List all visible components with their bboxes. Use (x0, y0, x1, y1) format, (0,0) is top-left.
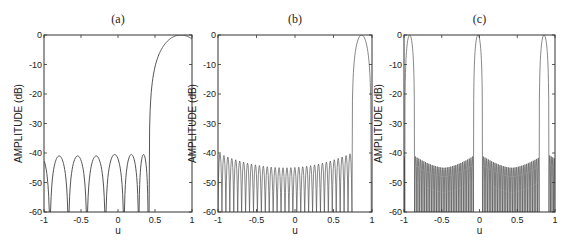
y-tick-label: 0 (211, 30, 216, 40)
x-tick-label: -0.5 (249, 215, 265, 225)
y-tick-label: -50 (389, 178, 402, 188)
y-tick-label: -60 (389, 207, 402, 217)
x-tick-label: 0 (115, 215, 120, 225)
y-tick-label: -30 (29, 119, 42, 129)
subplot-b: (b)-1-0.500.510-10-20-30-40-50-60uAMPLIT… (187, 12, 375, 236)
x-axis-label: u (292, 225, 298, 236)
y-tick-label: 0 (37, 30, 42, 40)
subplot-title: (a) (111, 12, 124, 26)
y-tick-label: -10 (203, 60, 216, 70)
y-tick-label: 0 (397, 30, 402, 40)
subplot-a: (a)-1-0.500.510-10-20-30-40-50-60uAMPLIT… (13, 12, 195, 236)
subplot-title: (b) (288, 12, 302, 26)
x-tick-label: -0.5 (434, 215, 450, 225)
x-tick-label: 0.5 (327, 215, 340, 225)
x-tick-label: -0.5 (73, 215, 89, 225)
y-tick-label: -30 (203, 119, 216, 129)
y-axis-label: AMPLITUDE (dB) (187, 84, 198, 163)
figure: (a)-1-0.500.510-10-20-30-40-50-60uAMPLIT… (0, 0, 569, 245)
y-tick-label: -10 (389, 60, 402, 70)
x-tick-label: 1 (189, 215, 194, 225)
y-tick-label: -40 (389, 148, 402, 158)
x-axis-label: u (477, 225, 483, 236)
x-tick-label: 0.5 (149, 215, 162, 225)
subplot-c: (c)-1-0.500.510-10-20-30-40-50-60uAMPLIT… (373, 12, 558, 236)
y-tick-label: -50 (29, 178, 42, 188)
y-tick-label: -50 (203, 178, 216, 188)
y-tick-label: -30 (389, 119, 402, 129)
x-tick-label: 1 (552, 215, 557, 225)
x-tick-label: 1 (369, 215, 374, 225)
subplot-title: (c) (473, 12, 486, 26)
y-tick-label: -40 (29, 148, 42, 158)
y-axis-label: AMPLITUDE (dB) (13, 84, 24, 163)
x-tick-label: 0 (477, 215, 482, 225)
amplitude-curve (44, 35, 192, 212)
y-axis-label: AMPLITUDE (dB) (373, 84, 384, 163)
y-tick-label: -40 (203, 148, 216, 158)
y-tick-label: -20 (203, 89, 216, 99)
y-tick-label: -60 (203, 207, 216, 217)
y-tick-label: -20 (389, 89, 402, 99)
amplitude-curve (404, 35, 555, 212)
y-tick-label: -10 (29, 60, 42, 70)
y-tick-label: -60 (29, 207, 42, 217)
x-axis-label: u (115, 225, 121, 236)
x-tick-label: 0.5 (511, 215, 524, 225)
x-tick-label: 0 (292, 215, 297, 225)
amplitude-curve (218, 35, 371, 212)
y-tick-label: -20 (29, 89, 42, 99)
